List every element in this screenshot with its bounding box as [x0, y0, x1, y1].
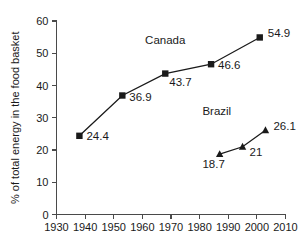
axis-lines — [57, 21, 286, 215]
data-point-marker — [162, 70, 168, 76]
data-point-marker — [208, 61, 214, 67]
x-axis-ticks — [57, 215, 286, 220]
x-axis-tick-labels: 193019401950196019701980199020002010 — [44, 221, 297, 233]
x-tick-label-1960: 1960 — [130, 221, 154, 233]
data-point-marker — [257, 34, 263, 40]
y-tick-label-20: 20 — [36, 144, 48, 156]
y-tick-label-60: 60 — [36, 15, 48, 27]
chart-canvas: 0102030405060 19301940195019601970198019… — [0, 0, 298, 245]
x-tick-label-1970: 1970 — [159, 221, 183, 233]
data-point-marker — [119, 92, 125, 98]
data-point-marker — [262, 126, 269, 133]
y-tick-label-30: 30 — [36, 112, 48, 124]
y-tick-label-0: 0 — [42, 209, 48, 221]
y-axis-title: % of total energy in the food basket — [9, 32, 21, 204]
x-tick-label-1930: 1930 — [44, 221, 68, 233]
data-point-label: 54.9 — [268, 27, 290, 39]
x-tick-label-2010: 2010 — [273, 221, 297, 233]
data-point-label: 18.7 — [202, 158, 224, 170]
chart-annotations: 24.436.943.746.654.9Canada18.72126.1Braz… — [86, 27, 295, 170]
chart-axes — [57, 21, 286, 215]
series-label-canada: Canada — [145, 34, 186, 46]
x-tick-label-1950: 1950 — [102, 221, 126, 233]
y-axis-tick-labels: 0102030405060 — [36, 15, 48, 221]
data-point-marker — [239, 143, 246, 150]
y-axis-title-text: % of total energy in the food basket — [9, 32, 21, 204]
x-tick-label-1940: 1940 — [73, 221, 97, 233]
data-point-marker — [76, 133, 82, 139]
chart-figure: 0102030405060 19301940195019601970198019… — [0, 0, 298, 245]
data-point-label: 36.9 — [129, 91, 151, 103]
data-point-label: 43.7 — [169, 76, 191, 88]
y-axis-ticks — [52, 21, 57, 215]
y-tick-label-10: 10 — [36, 176, 48, 188]
data-point-label: 46.6 — [218, 59, 240, 71]
data-point-label: 21 — [250, 146, 263, 158]
y-tick-label-40: 40 — [36, 80, 48, 92]
x-tick-label-1980: 1980 — [187, 221, 211, 233]
series-label-brazil: Brazil — [202, 105, 231, 117]
y-tick-label-50: 50 — [36, 47, 48, 59]
data-point-label: 24.4 — [86, 130, 109, 142]
x-tick-label-1990: 1990 — [216, 221, 240, 233]
data-point-label: 26.1 — [273, 120, 295, 132]
x-tick-label-2000: 2000 — [245, 221, 269, 233]
